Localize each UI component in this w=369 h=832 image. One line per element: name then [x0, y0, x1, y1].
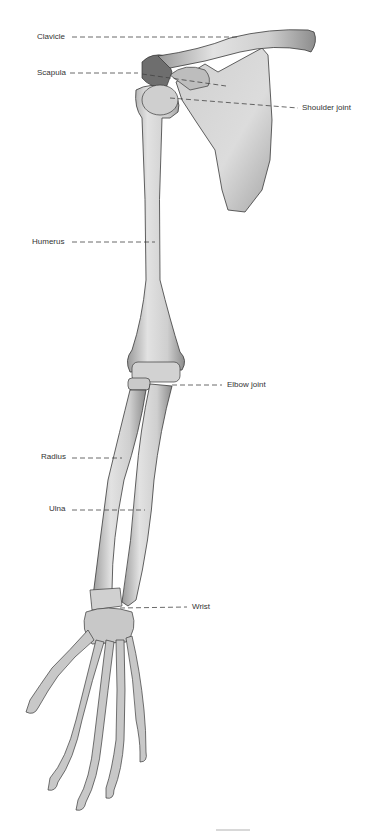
- label-scapula: Scapula: [37, 68, 66, 78]
- label-shoulder-joint: Shoulder joint: [302, 103, 351, 113]
- label-ulna: Ulna: [49, 504, 65, 514]
- label-radius: Radius: [41, 452, 66, 462]
- humerus-bone: [127, 85, 184, 372]
- label-humerus: Humerus: [32, 237, 64, 247]
- label-wrist: Wrist: [192, 602, 210, 612]
- label-clavicle: Clavicle: [37, 32, 65, 42]
- label-elbow-joint: Elbow joint: [227, 380, 266, 390]
- scroll-indicator[interactable]: [216, 829, 250, 831]
- hand-bones: [26, 608, 146, 810]
- arm-skeleton-illustration: [0, 0, 369, 832]
- forearm-bones: [90, 384, 172, 610]
